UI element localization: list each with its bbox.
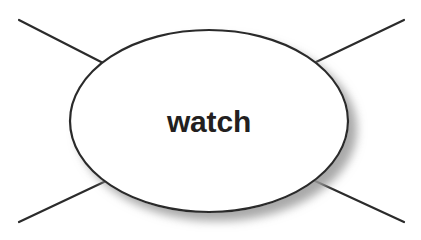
connector-bottom-left[interactable]	[19, 181, 106, 222]
node-link-diagram: watch	[0, 0, 421, 240]
connector-bottom-right[interactable]	[313, 180, 404, 222]
connector-top-left[interactable]	[19, 20, 107, 65]
diagram-canvas: watch	[0, 0, 421, 240]
connector-top-right[interactable]	[314, 20, 404, 63]
watch-node[interactable]: watch	[70, 30, 348, 212]
node-label: watch	[166, 105, 251, 138]
